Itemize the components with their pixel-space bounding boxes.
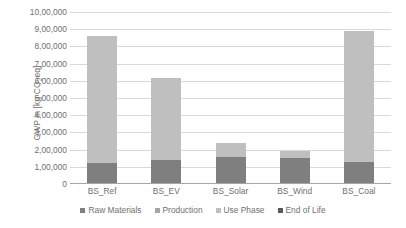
bar-group[interactable] xyxy=(87,36,117,184)
bar-segment[interactable] xyxy=(344,31,374,162)
y-axis-tick-label: 5,00,000 xyxy=(14,94,67,102)
bar-segment[interactable] xyxy=(151,78,181,160)
x-axis-tick-label: BS_Ref xyxy=(88,186,117,196)
legend-item[interactable]: Production xyxy=(155,205,203,215)
x-axis-tick-label: BS_EV xyxy=(153,186,180,196)
bar-group[interactable] xyxy=(216,143,246,184)
plot-area xyxy=(70,12,391,184)
legend-label: Use Phase xyxy=(224,205,265,215)
y-axis-tick-label: 1,00,000 xyxy=(14,163,67,171)
bar-group[interactable] xyxy=(280,151,310,184)
legend-item[interactable]: Raw Materials xyxy=(80,205,141,215)
x-axis-tick-label: BS_Coal xyxy=(342,186,375,196)
bar-group[interactable] xyxy=(151,78,181,184)
bar-group[interactable] xyxy=(344,31,374,184)
y-axis-tick-label: 0 xyxy=(14,180,67,188)
legend-item[interactable]: End of Life xyxy=(278,205,326,215)
x-axis-line xyxy=(70,183,391,184)
y-axis-tick-label: 2,00,000 xyxy=(14,145,67,153)
gwp-stacked-bar-chart: GWP in [kg CO2eq] 01,00,0002,00,0003,00,… xyxy=(0,0,406,228)
bar-segment[interactable] xyxy=(216,143,246,158)
x-axis-tick-label: BS_Wind xyxy=(277,186,312,196)
y-axis-tick-label: 8,00,000 xyxy=(14,42,67,50)
x-axis-tick-label: BS_Solar xyxy=(213,186,248,196)
chart-legend: Raw MaterialsProductionUse PhaseEnd of L… xyxy=(0,205,406,215)
y-axis-tick-label: 9,00,000 xyxy=(14,25,67,33)
x-axis-tick-labels: BS_RefBS_EVBS_SolarBS_WindBS_Coal xyxy=(70,186,391,200)
bar-segment[interactable] xyxy=(151,160,181,184)
legend-label: Production xyxy=(163,205,203,215)
bar-segment[interactable] xyxy=(280,151,310,158)
y-axis-tick-label: 6,00,000 xyxy=(14,77,67,85)
legend-swatch-icon xyxy=(155,208,160,213)
bar-segment[interactable] xyxy=(344,162,374,184)
y-axis-tick-label: 4,00,000 xyxy=(14,111,67,119)
y-axis-tick-label: 3,00,000 xyxy=(14,128,67,136)
legend-swatch-icon xyxy=(216,208,221,213)
bar-segment[interactable] xyxy=(87,36,117,162)
legend-swatch-icon xyxy=(278,208,283,213)
y-axis-tick-label: 10,00,000 xyxy=(14,8,67,16)
bar-segment[interactable] xyxy=(216,157,246,184)
legend-item[interactable]: Use Phase xyxy=(216,205,265,215)
bar-segment[interactable] xyxy=(280,158,310,184)
y-axis-tick-labels: 01,00,0002,00,0003,00,0004,00,0005,00,00… xyxy=(14,12,67,184)
legend-label: Raw Materials xyxy=(88,205,141,215)
legend-swatch-icon xyxy=(80,208,85,213)
bar-segment[interactable] xyxy=(87,163,117,185)
y-axis-tick-label: 7,00,000 xyxy=(14,59,67,67)
legend-label: End of Life xyxy=(286,205,326,215)
bars-layer xyxy=(70,12,391,184)
